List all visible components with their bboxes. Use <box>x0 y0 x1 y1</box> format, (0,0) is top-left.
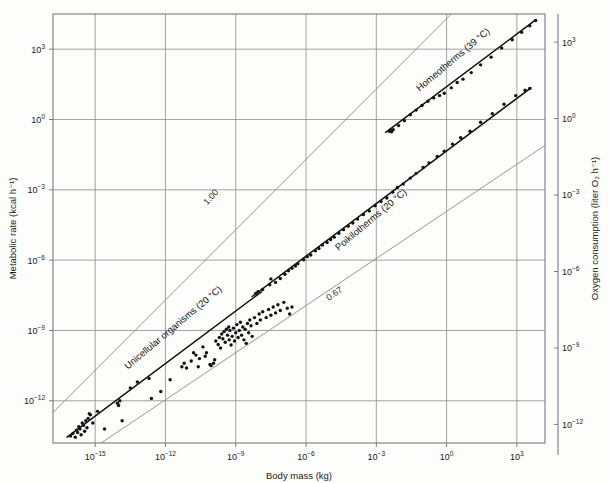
data-point <box>197 365 200 368</box>
data-point <box>150 397 153 400</box>
data-point <box>479 63 482 66</box>
data-point <box>233 339 236 342</box>
data-point <box>214 339 217 342</box>
data-point <box>269 314 272 317</box>
data-point <box>96 410 99 413</box>
data-point <box>180 365 183 368</box>
data-point <box>438 94 441 97</box>
data-point <box>265 316 268 319</box>
data-point <box>232 326 235 329</box>
data-point <box>269 277 272 280</box>
data-point <box>117 404 120 407</box>
data-point <box>421 166 424 169</box>
data-point <box>221 337 224 340</box>
data-point <box>391 128 394 131</box>
data-point <box>427 161 430 164</box>
data-point <box>436 155 439 158</box>
data-point <box>502 103 505 106</box>
data-point <box>528 87 531 90</box>
data-point <box>228 329 231 332</box>
data-point <box>247 331 250 334</box>
data-point <box>459 136 462 139</box>
data-point <box>450 86 453 89</box>
data-point <box>190 359 193 362</box>
data-point <box>347 224 350 227</box>
data-point <box>192 351 195 354</box>
data-point <box>276 303 279 306</box>
data-point <box>231 335 234 338</box>
data-point <box>248 318 251 321</box>
data-point <box>226 333 229 336</box>
data-point <box>168 378 171 381</box>
data-point <box>489 55 492 58</box>
data-point <box>432 96 435 99</box>
data-point <box>103 427 106 430</box>
data-point <box>290 267 293 270</box>
data-point <box>325 241 328 244</box>
data-point <box>287 269 290 272</box>
data-point <box>523 88 526 91</box>
data-point <box>259 318 262 321</box>
data-point <box>302 258 305 261</box>
data-point <box>290 305 293 308</box>
data-point <box>76 431 79 434</box>
data-point <box>403 119 406 122</box>
data-point <box>79 433 82 436</box>
data-point <box>332 235 335 238</box>
data-point <box>267 308 270 311</box>
data-point <box>443 149 446 152</box>
data-point <box>253 316 256 319</box>
data-point <box>243 328 246 331</box>
data-point <box>159 390 162 393</box>
data-point <box>479 121 482 124</box>
data-point <box>120 419 123 422</box>
data-point <box>86 417 89 420</box>
data-point <box>414 172 417 175</box>
data-point <box>356 217 359 220</box>
data-point <box>397 124 400 127</box>
data-point <box>321 243 324 246</box>
data-point <box>528 24 531 27</box>
data-point <box>309 253 312 256</box>
data-point <box>256 290 259 293</box>
data-point <box>246 322 249 325</box>
data-point <box>500 46 503 49</box>
data-point <box>362 213 365 216</box>
data-point <box>461 77 464 80</box>
data-point <box>268 283 271 286</box>
data-point <box>204 355 207 358</box>
data-point <box>402 182 405 185</box>
data-point <box>451 142 454 145</box>
data-point <box>74 435 77 438</box>
data-point <box>420 104 423 107</box>
data-point <box>245 342 248 345</box>
data-point <box>306 255 309 258</box>
data-point <box>342 228 345 231</box>
data-point <box>71 432 74 435</box>
data-point <box>329 238 332 241</box>
data-point <box>147 377 150 380</box>
data-point <box>82 424 85 427</box>
data-point <box>288 312 291 315</box>
data-point <box>261 310 264 313</box>
data-point <box>314 249 317 252</box>
data-point <box>491 112 494 115</box>
data-point <box>274 311 277 314</box>
data-point <box>468 130 471 133</box>
data-point <box>511 38 514 41</box>
data-point <box>91 421 94 424</box>
data-point <box>224 340 227 343</box>
data-point <box>414 108 417 111</box>
data-point <box>213 358 216 361</box>
data-point <box>272 305 275 308</box>
data-point <box>89 413 92 416</box>
data-point <box>240 333 243 336</box>
data-point <box>235 323 238 326</box>
data-point <box>85 426 88 429</box>
data-point <box>198 357 201 360</box>
data-point <box>216 343 219 346</box>
data-point <box>227 325 230 328</box>
data-point <box>286 307 289 310</box>
data-point <box>250 335 253 338</box>
metabolic-rate-scatter-chart: 10−1510−1210−910−610−3100103 10310010−31… <box>0 0 610 483</box>
